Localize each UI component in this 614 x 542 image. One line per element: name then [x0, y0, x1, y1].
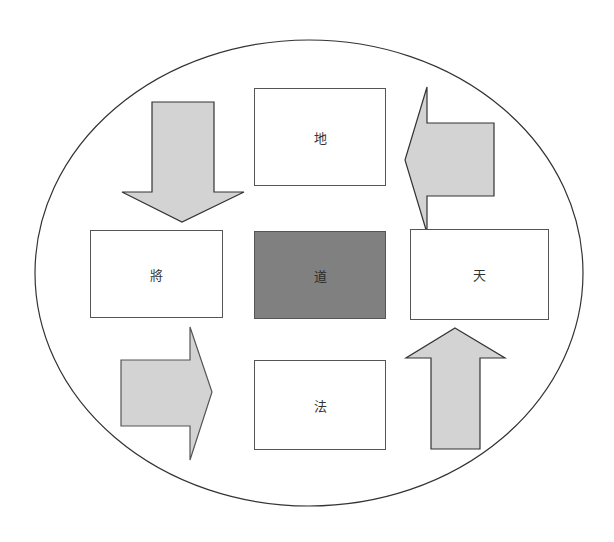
box-left: 將: [90, 230, 223, 318]
box-left-label: 將: [150, 265, 163, 284]
box-right-label: 天: [473, 265, 486, 284]
box-bottom: 法: [254, 360, 386, 450]
box-top: 地: [254, 88, 386, 186]
box-right: 天: [410, 229, 549, 320]
box-center-label: 道: [314, 266, 327, 285]
box-center: 道: [254, 231, 386, 319]
box-top-label: 地: [314, 128, 327, 147]
box-bottom-label: 法: [314, 396, 327, 415]
